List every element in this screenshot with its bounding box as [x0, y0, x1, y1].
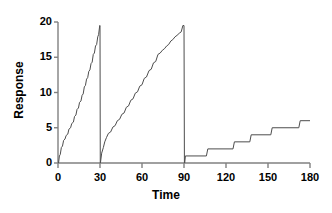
- x-tick-label-150: 150: [248, 172, 288, 183]
- y-tick-label-10: 10: [28, 87, 52, 98]
- x-axis-title: Time: [0, 188, 332, 202]
- y-tick-label-0: 0: [28, 157, 52, 168]
- cumulative-response-chart: 051015200306090120150180 Time Response: [0, 0, 332, 213]
- series-segment-3: [185, 121, 310, 163]
- series-segment-1: [59, 26, 101, 163]
- x-tick-label-0: 0: [38, 172, 78, 183]
- y-axis-title: Response: [12, 40, 26, 140]
- x-tick-label-120: 120: [206, 172, 246, 183]
- y-tick-label-15: 15: [28, 51, 52, 62]
- x-tick-label-90: 90: [164, 172, 204, 183]
- x-tick-label-30: 30: [80, 172, 120, 183]
- y-tick-label-20: 20: [28, 16, 52, 27]
- x-tick-label-60: 60: [122, 172, 162, 183]
- axis-ticks: [54, 22, 310, 168]
- data-series: [59, 26, 310, 163]
- series-segment-2: [100, 26, 184, 163]
- y-tick-label-5: 5: [28, 122, 52, 133]
- x-tick-label-180: 180: [290, 172, 330, 183]
